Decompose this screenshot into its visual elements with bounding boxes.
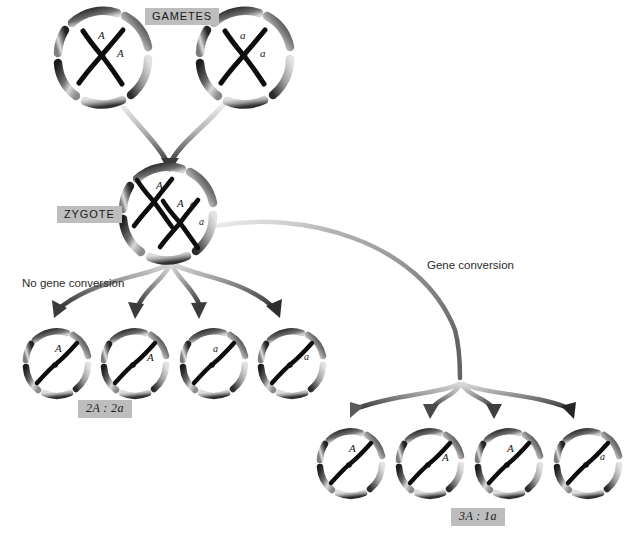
fusion-arrow-left xyxy=(121,104,166,160)
gene-conversion-curve xyxy=(216,222,460,378)
chromatid xyxy=(410,443,450,483)
allele-product-left-4: a xyxy=(304,351,309,362)
chromatid xyxy=(272,343,312,383)
ratio-right-tag: 3A : 1a xyxy=(451,508,505,526)
allele-product-left-2: A xyxy=(147,351,154,363)
allele-gamete-left-2: A xyxy=(117,47,124,59)
allele-product-right-1: A xyxy=(349,442,356,454)
ratio-left-tag: 2A : 2a xyxy=(78,400,132,418)
allele-product-right-3: A xyxy=(507,442,514,454)
gamete-left-cell xyxy=(58,11,148,105)
allele-zygote-4: a xyxy=(199,216,204,227)
allele-product-right-2: A xyxy=(442,451,449,463)
chromatid xyxy=(568,443,608,483)
zygote-cell xyxy=(123,167,213,261)
product-left-2-cell xyxy=(104,331,166,395)
no-gene-conversion-label: No gene conversion xyxy=(22,277,124,289)
allele-zygote-3: a xyxy=(190,198,195,209)
product-left-3-cell xyxy=(183,331,245,395)
allele-zygote-2: A xyxy=(177,197,184,209)
allele-product-left-1: A xyxy=(55,342,62,354)
product-left-4-cell xyxy=(261,331,323,395)
gene-conversion-label: Gene conversion xyxy=(427,259,514,271)
diagram-canvas: GAMETES ZYGOTE No gene conversion Gene c… xyxy=(0,0,636,545)
diagram-vector-layer xyxy=(0,0,636,545)
allele-zygote-1: A xyxy=(156,179,163,191)
product-right-4-cell xyxy=(557,431,619,495)
allele-product-left-3: a xyxy=(213,343,218,354)
allele-gamete-left-1: A xyxy=(98,29,105,41)
split-arrows-left xyxy=(52,264,282,319)
allele-gamete-right-2: a xyxy=(260,47,266,59)
product-right-2-cell xyxy=(399,431,461,495)
zygote-tag: ZYGOTE xyxy=(57,206,122,223)
allele-product-right-4: a xyxy=(600,451,605,462)
allele-gamete-right-1: a xyxy=(240,29,246,41)
gametes-tag: GAMETES xyxy=(145,8,219,25)
chromatid xyxy=(115,343,155,383)
fusion-arrow-right xyxy=(161,104,224,172)
split-arrows-right xyxy=(350,384,576,419)
